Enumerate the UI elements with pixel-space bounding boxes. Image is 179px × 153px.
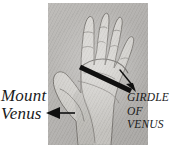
label-girdle-of-venus-line1: GIRDLE [127,92,169,104]
label-girdle-of-venus: GIRDLE OF VENUS [127,92,169,133]
label-girdle-of-venus-line3: VENUS [127,119,169,131]
palmistry-annotated-figure: Mount Venus GIRDLE OF VENUS [0,0,179,153]
label-girdle-of-venus-line2: OF [127,106,169,118]
label-mount-venus-line2: Venus [1,105,46,122]
label-mount-venus-line1: Mount [1,87,46,104]
label-mount-venus: Mount Venus [1,87,46,123]
